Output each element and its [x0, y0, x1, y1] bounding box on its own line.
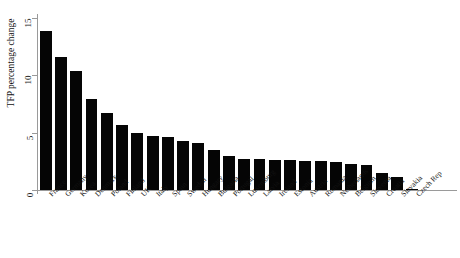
- bar: [40, 31, 52, 190]
- bar-slot: [328, 18, 343, 190]
- bar-slot: [389, 18, 404, 190]
- bar-slot: [99, 18, 114, 190]
- y-tick-label-text: 15: [23, 19, 33, 28]
- bar: [70, 71, 82, 190]
- bar: [55, 57, 67, 190]
- bar-slot: [252, 18, 267, 190]
- bar-slot: [237, 18, 252, 190]
- bar-slot: [267, 18, 282, 190]
- y-tick-mark: [32, 18, 37, 19]
- y-tick-mark: [32, 75, 37, 76]
- tfp-bar-chart-figure: 051015 TFP percentage change FranceGerma…: [0, 0, 460, 258]
- bar-slot: [69, 18, 84, 190]
- y-tick-label-text: 0: [25, 193, 35, 198]
- y-tick-label: 0: [2, 184, 32, 194]
- bar-slot: [313, 18, 328, 190]
- bar-slot: [221, 18, 236, 190]
- bar-slot: [374, 18, 389, 190]
- bar-slot: [405, 18, 420, 190]
- bar-slot: [344, 18, 359, 190]
- bar-slot: [145, 18, 160, 190]
- bar-slot: [114, 18, 129, 190]
- y-tick-mark: [32, 133, 37, 134]
- bar-series: [38, 18, 420, 190]
- bar-slot: [359, 18, 374, 190]
- y-tick-label-text: 10: [23, 76, 33, 85]
- bar-slot: [160, 18, 175, 190]
- bar: [147, 136, 159, 190]
- bar-slot: [53, 18, 68, 190]
- y-axis-title: TFP percentage change: [6, 0, 16, 138]
- bar-slot: [206, 18, 221, 190]
- x-axis-category-labels: FranceGermanyKoreaDenmarkPolandFinlandUK…: [38, 192, 438, 256]
- y-tick-label-text: 5: [25, 135, 35, 140]
- y-tick-mark: [32, 190, 37, 191]
- bar-slot: [282, 18, 297, 190]
- bar-slot: [38, 18, 53, 190]
- bar-slot: [84, 18, 99, 190]
- bar-slot: [191, 18, 206, 190]
- bar-slot: [130, 18, 145, 190]
- bar-slot: [176, 18, 191, 190]
- bar-slot: [298, 18, 313, 190]
